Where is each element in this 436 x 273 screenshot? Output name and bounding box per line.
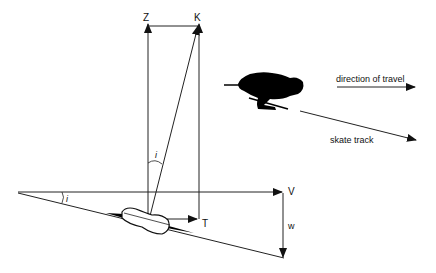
angle-label-left: i — [66, 194, 69, 204]
t-label: T — [202, 218, 208, 229]
angle-arc-top — [148, 161, 162, 164]
v-label: V — [288, 186, 295, 197]
force-diagram: i i Z K V T w direction of travel skate … — [0, 0, 436, 273]
k-resultant-vector — [150, 26, 198, 216]
skate-boot-icon — [122, 208, 169, 234]
w-label: w — [287, 221, 295, 231]
angle-label-top: i — [155, 150, 158, 160]
angle-arc-left — [62, 192, 64, 203]
skate-track-label: skate track — [330, 135, 374, 145]
k-label: K — [194, 12, 201, 23]
skater-silhouette-icon — [224, 72, 303, 110]
direction-label: direction of travel — [336, 74, 405, 84]
z-label: Z — [143, 12, 149, 23]
